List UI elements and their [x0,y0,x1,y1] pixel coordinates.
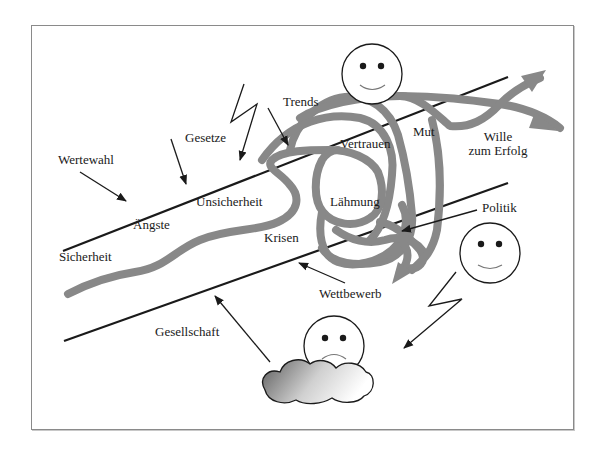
label-laehmung: Lähmung [330,195,380,209]
diagram-canvas [0,0,611,453]
label-wille-line1: Wille [463,130,533,144]
label-politik: Politik [482,201,517,215]
label-wettbewerb: Wettbewerb [319,287,381,301]
label-mut: Mut [413,125,435,139]
label-sicherheit: Sicherheit [59,250,112,264]
label-trends: Trends [283,95,319,109]
label-gesetze: Gesetze [185,131,226,145]
label-wertewahl: Wertewahl [58,153,114,167]
cloud-icon [263,360,374,404]
label-gesellschaft: Gesellschaft [155,325,219,339]
label-wille-zum-erfolg: Wille zum Erfolg [463,130,533,158]
label-vertrauen: Vertrauen [340,137,391,151]
lightning-bolt-top-icon [231,84,257,160]
label-aengste: Ängste [133,218,170,232]
happy-face-right-icon [460,223,520,283]
gesellschaft-arrow [215,296,270,362]
wertewahl-arrow [80,172,126,201]
lightning-bolt-right-icon [404,272,462,348]
happy-face-top-icon [342,44,402,104]
label-wille-line2: zum Erfolg [463,144,533,158]
gesetze-arrow [171,139,186,184]
label-krisen: Krisen [264,231,299,245]
label-unsicherheit: Unsicherheit [196,195,262,209]
